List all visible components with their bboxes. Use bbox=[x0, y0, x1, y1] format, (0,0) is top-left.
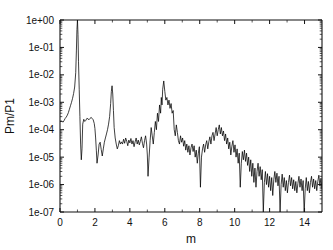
x-tick-label: 0 bbox=[57, 217, 63, 228]
x-tick-label: 6 bbox=[162, 217, 168, 228]
x-tick-label: 8 bbox=[197, 217, 203, 228]
x-axis-title: m bbox=[186, 232, 196, 246]
y-tick-label: 1e-01 bbox=[28, 42, 54, 53]
y-tick-label: 1e-03 bbox=[28, 97, 54, 108]
y-tick-label: 1e-06 bbox=[28, 179, 54, 190]
y-tick-label: 1e-07 bbox=[28, 207, 54, 218]
y-tick-label: 1e-02 bbox=[28, 69, 54, 80]
y-tick-label: 1e-04 bbox=[28, 124, 54, 135]
figure-container: 02468101214 1e+001e-011e-021e-031e-041e-… bbox=[0, 0, 333, 250]
x-tick-label: 2 bbox=[92, 217, 98, 228]
x-tick-label: 4 bbox=[127, 217, 133, 228]
x-tick-label: 12 bbox=[264, 217, 276, 228]
spectrum-plot: 02468101214 1e+001e-011e-021e-031e-041e-… bbox=[0, 0, 333, 250]
x-tick-label: 10 bbox=[229, 217, 241, 228]
y-tick-label: 1e+00 bbox=[26, 15, 55, 26]
y-tick-label: 1e-05 bbox=[28, 152, 54, 163]
y-axis-title: Pm/P1 bbox=[3, 98, 17, 134]
x-tick-label: 14 bbox=[299, 217, 311, 228]
